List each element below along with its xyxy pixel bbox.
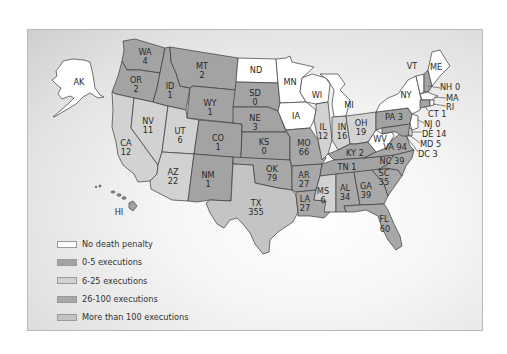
svg-text:WI: WI <box>312 90 323 100</box>
svg-text:MI: MI <box>344 100 353 110</box>
svg-text:4: 4 <box>142 56 147 66</box>
legend-swatch-0-5 <box>57 259 77 266</box>
svg-text:2: 2 <box>199 70 204 80</box>
state-FL[interactable] <box>344 204 402 250</box>
svg-text:NJ 0: NJ 0 <box>424 119 440 129</box>
svg-text:NC 39: NC 39 <box>380 156 405 166</box>
state-RI[interactable] <box>430 100 434 106</box>
legend-swatch-6-25 <box>57 277 77 284</box>
legend-item-6-25: 6-25 executions <box>57 272 189 290</box>
svg-text:355: 355 <box>248 207 264 217</box>
svg-text:TN 1: TN 1 <box>337 162 357 172</box>
state-CT[interactable] <box>420 100 430 108</box>
svg-text:KY 2: KY 2 <box>346 148 364 158</box>
svg-text:1: 1 <box>215 142 220 152</box>
svg-text:DE 14: DE 14 <box>422 129 447 139</box>
legend: No death penalty 0-5 executions 6-25 exe… <box>57 235 189 326</box>
legend-item-100-plus: More than 100 executions <box>57 308 189 326</box>
legend-label: 0-5 executions <box>82 257 142 267</box>
svg-text:16: 16 <box>337 131 347 141</box>
legend-item-0-5: 0-5 executions <box>57 253 189 271</box>
legend-label: More than 100 executions <box>82 312 189 322</box>
svg-text:VT: VT <box>407 61 419 71</box>
svg-text:NY: NY <box>400 90 412 100</box>
svg-text:NH 0: NH 0 <box>440 82 460 92</box>
svg-text:IA: IA <box>292 111 300 121</box>
state-NY[interactable] <box>376 76 422 114</box>
svg-text:2: 2 <box>133 84 138 94</box>
state-NJ[interactable] <box>410 114 418 130</box>
svg-text:12: 12 <box>318 131 328 141</box>
svg-text:0: 0 <box>252 97 257 107</box>
svg-text:WV: WV <box>373 134 387 144</box>
svg-text:ND: ND <box>250 65 262 75</box>
svg-text:AK: AK <box>74 77 86 87</box>
svg-text:3: 3 <box>252 122 257 132</box>
svg-text:6: 6 <box>320 195 325 205</box>
svg-text:35: 35 <box>379 177 389 187</box>
svg-text:11: 11 <box>143 125 153 135</box>
svg-text:1: 1 <box>207 107 212 117</box>
state-MA[interactable] <box>420 92 438 100</box>
svg-text:79: 79 <box>267 173 277 183</box>
svg-text:1: 1 <box>205 179 210 189</box>
legend-swatch-none <box>57 241 77 248</box>
svg-text:MD 5: MD 5 <box>420 139 441 149</box>
svg-text:FL: FL <box>379 214 389 224</box>
svg-text:PA 3: PA 3 <box>385 112 403 122</box>
svg-text:DC 3: DC 3 <box>418 149 438 159</box>
svg-text:22: 22 <box>168 176 178 186</box>
svg-text:ME: ME <box>430 62 442 72</box>
svg-text:6: 6 <box>177 135 182 145</box>
svg-text:27: 27 <box>299 179 309 189</box>
svg-text:66: 66 <box>299 147 309 157</box>
svg-text:0: 0 <box>261 146 266 156</box>
legend-label: 26-100 executions <box>82 294 158 304</box>
state-AK[interactable] <box>52 59 104 117</box>
svg-text:HI: HI <box>115 207 124 217</box>
svg-text:27: 27 <box>300 203 310 213</box>
svg-text:34: 34 <box>340 192 350 202</box>
svg-text:MN: MN <box>283 77 296 87</box>
svg-text:39: 39 <box>361 190 371 200</box>
legend-label: No death penalty <box>82 239 153 249</box>
svg-text:60: 60 <box>380 224 390 234</box>
svg-text:RI: RI <box>446 102 454 112</box>
legend-label: 6-25 executions <box>82 276 147 286</box>
legend-swatch-26-100 <box>57 296 77 303</box>
svg-text:1: 1 <box>167 90 172 100</box>
svg-text:CT 1: CT 1 <box>428 109 447 119</box>
legend-swatch-100-plus <box>57 314 77 321</box>
svg-text:19: 19 <box>356 127 366 137</box>
svg-text:12: 12 <box>121 147 131 157</box>
legend-item-26-100: 26-100 executions <box>57 290 189 308</box>
legend-item-none: No death penalty <box>57 235 189 253</box>
